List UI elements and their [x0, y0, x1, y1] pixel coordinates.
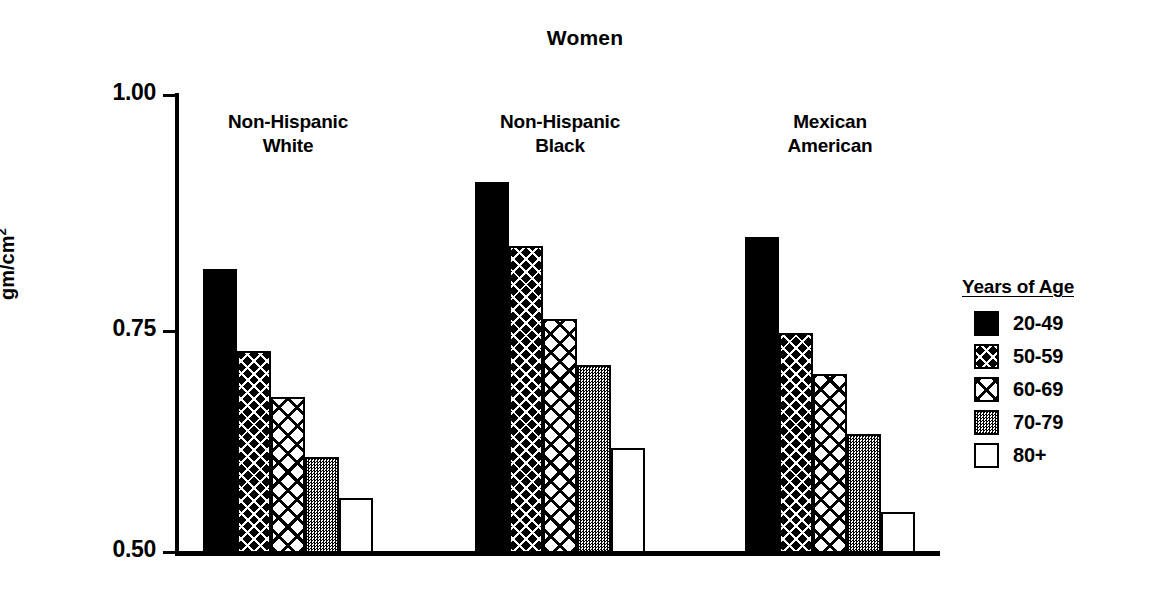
y-tick-050	[163, 551, 176, 554]
legend-swatch-icon	[974, 377, 999, 402]
legend-label: 60-69	[1013, 378, 1063, 401]
bar-1-50-59	[237, 351, 271, 553]
legend-rows: 20-4950-5960-6970-7980+	[962, 307, 1162, 472]
legend-item-20-49[interactable]: 20-49	[962, 307, 1162, 340]
group-label-line: White	[178, 134, 398, 158]
y-tick-label-050: 0.50	[84, 536, 156, 563]
bar-3-80plus	[881, 512, 915, 553]
bar-3-70-79	[847, 434, 881, 553]
chart-title: Women	[0, 26, 1170, 50]
group-label-line: Black	[450, 134, 670, 158]
y-axis-title-text: gm/cm	[0, 236, 18, 300]
legend-item-80plus[interactable]: 80+	[962, 439, 1162, 472]
legend-label: 70-79	[1013, 411, 1063, 434]
group-label-line: Non-Hispanic	[450, 110, 670, 134]
group-label-3: MexicanAmerican	[720, 110, 940, 158]
legend: Years of Age 20-4950-5960-6970-7980+	[962, 276, 1162, 472]
bar-2-50-59	[509, 246, 543, 553]
bar-3-60-69	[813, 374, 847, 553]
legend-label: 80+	[1013, 444, 1046, 467]
bar-1-60-69	[271, 397, 305, 553]
group-label-line: American	[720, 134, 940, 158]
bar-1-20-49	[203, 269, 237, 553]
bar-2-20-49	[475, 182, 509, 553]
group-label-1: Non-HispanicWhite	[178, 110, 398, 158]
group-label-line: Mexican	[720, 110, 940, 134]
legend-title: Years of Age	[962, 276, 1162, 298]
bar-2-60-69	[543, 319, 577, 553]
bar-3-50-59	[779, 333, 813, 553]
legend-item-60-69[interactable]: 60-69	[962, 373, 1162, 406]
legend-swatch-icon	[974, 311, 999, 336]
y-axis-spine	[175, 93, 179, 555]
group-label-2: Non-HispanicBlack	[450, 110, 670, 158]
legend-label: 50-59	[1013, 345, 1063, 368]
legend-swatch-icon	[974, 344, 999, 369]
bar-2-70-79	[577, 365, 611, 553]
legend-item-70-79[interactable]: 70-79	[962, 406, 1162, 439]
y-axis-title-exponent: 2	[0, 228, 9, 235]
legend-swatch-icon	[974, 443, 999, 468]
bar-1-70-79	[305, 457, 339, 553]
y-axis-title: gm/cm2	[0, 228, 19, 300]
legend-item-50-59[interactable]: 50-59	[962, 340, 1162, 373]
group-label-line: Non-Hispanic	[178, 110, 398, 134]
legend-swatch-icon	[974, 410, 999, 435]
bar-2-80plus	[611, 448, 645, 553]
y-tick-075	[163, 330, 176, 333]
legend-label: 20-49	[1013, 312, 1063, 335]
y-tick-label-075: 0.75	[84, 315, 156, 342]
y-tick-label-100: 1.00	[84, 79, 156, 106]
y-tick-100	[163, 94, 176, 97]
bar-1-80plus	[339, 498, 373, 553]
chart-root: Women 1.00 0.75 0.50 gm/cm2 Non-Hispanic…	[0, 0, 1170, 600]
bar-3-20-49	[745, 237, 779, 553]
